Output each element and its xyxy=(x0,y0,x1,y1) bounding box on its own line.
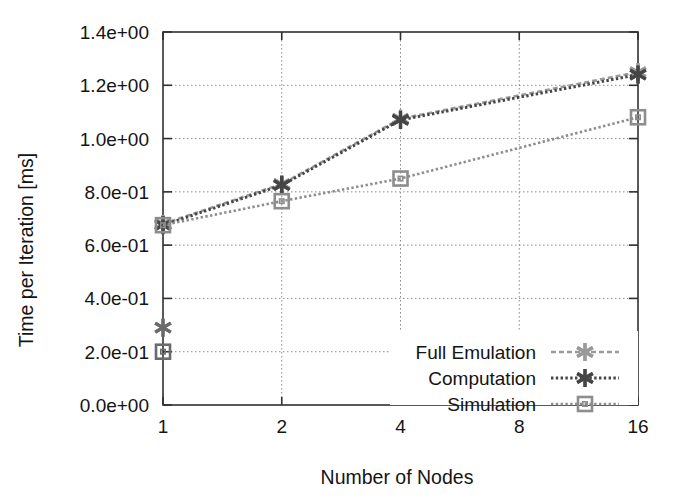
y-tick-label: 0.0e+00 xyxy=(80,395,149,416)
legend-label-simulation: Simulation xyxy=(447,394,536,415)
x-tick-label: 8 xyxy=(514,416,525,437)
y-tick-label: 1.2e+00 xyxy=(80,75,149,96)
x-axis-title: Number of Nodes xyxy=(321,466,474,488)
x-tick-label: 1 xyxy=(158,416,169,437)
y-tick-label: 8.0e-01 xyxy=(85,182,149,203)
x-tick-label: 2 xyxy=(276,416,287,437)
y-tick-label: 2.0e-01 xyxy=(85,342,149,363)
x-tick-label: 4 xyxy=(395,416,406,437)
x-tick-label: 16 xyxy=(627,416,648,437)
y-tick-label: 4.0e-01 xyxy=(85,288,149,309)
legend-label-computation: Computation xyxy=(428,368,536,389)
y-axis-title: Time per Iteration [ms] xyxy=(15,153,37,347)
y-tick-label: 1.4e+00 xyxy=(80,22,149,43)
y-tick-label: 1.0e+00 xyxy=(80,129,149,150)
chart-figure: 0.0e+002.0e-014.0e-016.0e-018.0e-011.0e+… xyxy=(0,0,690,504)
legend-label-full-emulation: Full Emulation xyxy=(416,342,536,363)
y-tick-label: 6.0e-01 xyxy=(85,235,149,256)
time-per-iteration-line-chart: 0.0e+002.0e-014.0e-016.0e-018.0e-011.0e+… xyxy=(0,0,690,504)
chart-legend: Full EmulationComputationSimulation xyxy=(390,331,638,415)
